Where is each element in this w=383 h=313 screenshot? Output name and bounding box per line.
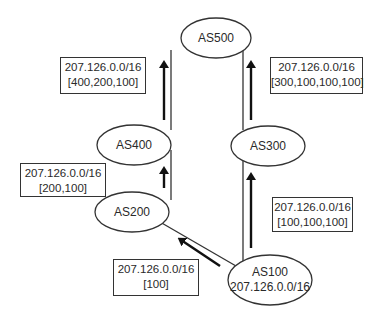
route-box-as200-as400: 207.126.0.0/16 [200,100]: [20, 163, 106, 197]
route-as-path: [200,100]: [21, 181, 105, 196]
node-label-as400: AS400: [104, 138, 164, 152]
route-box-as300-as500: 207.126.0.0/16 [300,100,100,100]: [270, 57, 363, 94]
route-prefix: 207.126.0.0/16: [114, 262, 198, 277]
route-arrows: [164, 64, 251, 266]
route-box-as100-as200: 207.126.0.0/16 [100]: [113, 259, 199, 296]
links: [160, 50, 243, 266]
node-label-as100: AS100: [230, 265, 310, 279]
route-box-as400-as500: 207.126.0.0/16 [400,200,100]: [60, 57, 146, 94]
route-as-path: [100]: [114, 277, 198, 292]
route-box-as100-as300: 207.126.0.0/16 [100,100,100]: [272, 197, 353, 232]
route-prefix: 207.126.0.0/16: [271, 60, 362, 75]
node-label-as200: AS200: [102, 205, 162, 219]
route-prefix: 207.126.0.0/16: [273, 200, 352, 215]
node-label-as300: AS300: [238, 139, 298, 153]
node-sublabel-as100: 207.126.0.0/16: [224, 280, 316, 294]
route-prefix: 207.126.0.0/16: [61, 60, 145, 75]
node-label-as500: AS500: [186, 31, 246, 45]
route-as-path: [100,100,100]: [273, 215, 352, 230]
route-as-path: [300,100,100,100]: [271, 75, 362, 90]
route-prefix: 207.126.0.0/16: [21, 166, 105, 181]
route-as-path: [400,200,100]: [61, 75, 145, 90]
